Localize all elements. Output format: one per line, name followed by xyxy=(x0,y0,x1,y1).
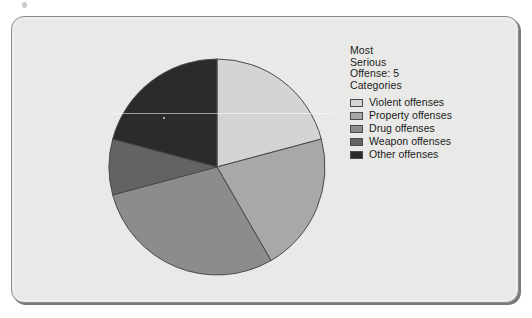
chart-panel: Most Serious Offense: 5 Categories Viole… xyxy=(11,16,519,303)
legend-item-list: Violent offensesProperty offensesDrug of… xyxy=(350,96,510,160)
legend-swatch-icon xyxy=(350,112,363,120)
legend-item-label: Drug offenses xyxy=(369,123,435,135)
legend-item-label: Other offenses xyxy=(369,149,438,161)
legend-title: Most Serious Offense: 5 Categories xyxy=(350,45,510,91)
legend-item: Violent offenses xyxy=(350,96,510,108)
pie-slice-group xyxy=(109,59,325,275)
chart-legend: Most Serious Offense: 5 Categories Viole… xyxy=(350,45,510,161)
legend-swatch-icon xyxy=(350,99,363,107)
legend-item-label: Weapon offenses xyxy=(369,136,451,148)
legend-item: Other offenses xyxy=(350,148,510,160)
legend-item: Drug offenses xyxy=(350,122,510,134)
pie-chart xyxy=(107,57,327,277)
legend-swatch-icon xyxy=(350,151,363,159)
legend-item-label: Property offenses xyxy=(369,110,452,122)
pie-chart-svg xyxy=(107,57,327,277)
legend-swatch-icon xyxy=(350,138,363,146)
legend-item: Property offenses xyxy=(350,109,510,121)
page-root: Most Serious Offense: 5 Categories Viole… xyxy=(0,0,532,318)
scan-artifact-speck xyxy=(22,2,27,8)
legend-item-label: Violent offenses xyxy=(369,97,444,109)
legend-swatch-icon xyxy=(350,125,363,133)
legend-item: Weapon offenses xyxy=(350,135,510,147)
